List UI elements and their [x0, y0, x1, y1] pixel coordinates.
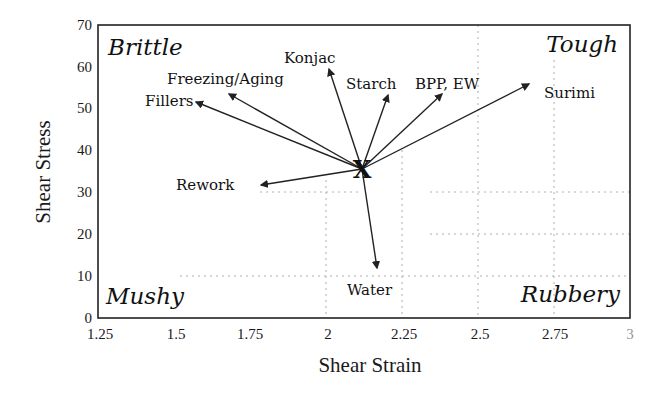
origin-x-marker: X: [353, 155, 372, 184]
y-tick: 10: [77, 268, 92, 284]
x-tick: 2: [324, 326, 332, 342]
region-mushy: Mushy: [105, 283, 185, 309]
region-rubbery: Rubbery: [520, 281, 621, 307]
y-tick: 40: [77, 142, 92, 158]
label-surimi: Surimi: [544, 84, 595, 102]
y-tick: 30: [77, 184, 92, 200]
x-tick: 2.25: [391, 326, 417, 342]
y-tick: 20: [77, 226, 92, 242]
region-tough: Tough: [546, 31, 618, 57]
label-rework: Rework: [176, 176, 235, 194]
x-tick: 2.5: [471, 326, 490, 342]
x-tick: 2.75: [542, 326, 568, 342]
label-bpp-ew: BPP, EW: [415, 75, 480, 93]
label-freezing-aging: Freezing/Aging: [167, 70, 284, 88]
label-water: Water: [347, 281, 393, 299]
label-starch: Starch: [346, 75, 397, 93]
arrow-rework: [261, 169, 362, 185]
x-tick: 1.75: [237, 326, 263, 342]
shear-stress-strain-chart: 0 10 20 30 40 50 60 70 1.25 1.5 1.75 2 2…: [0, 0, 660, 394]
region-brittle: Brittle: [107, 34, 183, 60]
label-konjac: Konjac: [284, 49, 336, 67]
x-tick: 3: [626, 326, 634, 342]
x-tick: 1.25: [87, 326, 113, 342]
y-tick: 70: [77, 17, 92, 33]
y-tick: 50: [77, 100, 92, 116]
arrow-fillers: [196, 102, 362, 169]
y-axis-title: Shear Stress: [31, 120, 55, 223]
label-fillers: Fillers: [145, 92, 194, 110]
gridlines: [180, 25, 630, 318]
y-tick: 60: [77, 59, 92, 75]
x-axis-title: Shear Strain: [318, 353, 422, 377]
arrow-freezing-aging: [229, 94, 362, 169]
x-axis-ticks: 1.25 1.5 1.75 2 2.25 2.5 2.75 3: [87, 326, 634, 342]
x-tick: 1.5: [167, 326, 186, 342]
y-tick: 0: [85, 310, 93, 326]
y-axis-ticks: 0 10 20 30 40 50 60 70: [77, 17, 92, 326]
